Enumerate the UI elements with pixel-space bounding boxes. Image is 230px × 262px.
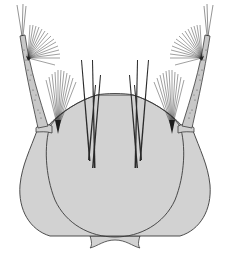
left-antennal-seta-tuft — [28, 25, 60, 65]
right-antennal-seta-tuft — [170, 25, 202, 65]
right-antenna-apical-setae — [204, 4, 213, 36]
left-antenna-apical-setae — [17, 4, 26, 36]
head-capsule — [20, 95, 210, 236]
labrum — [90, 236, 140, 248]
anatomical-illustration — [0, 0, 230, 262]
